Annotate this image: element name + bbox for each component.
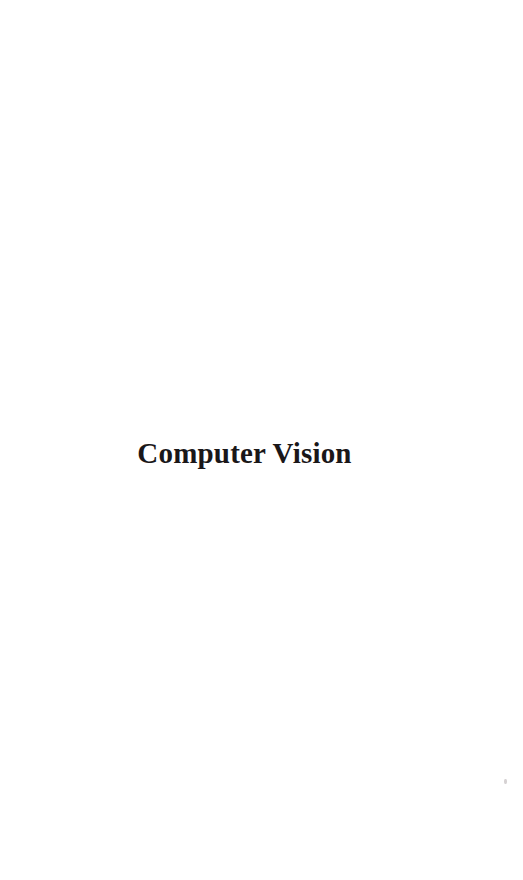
scanned-page: Computer Vision (0, 0, 523, 880)
page-upper-blank-area (0, 0, 523, 416)
scan-artifact-speck-icon (504, 779, 507, 784)
page-lower-blank-area (0, 466, 523, 880)
